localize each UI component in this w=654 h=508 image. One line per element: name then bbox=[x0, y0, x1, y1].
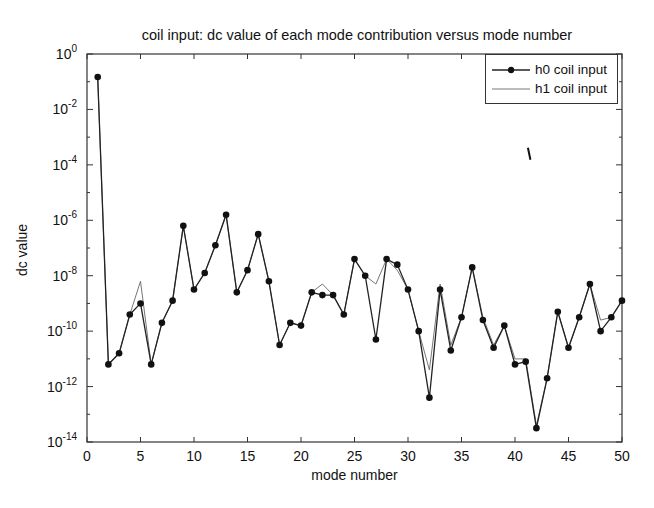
data-point-marker bbox=[394, 261, 401, 268]
data-point-marker bbox=[330, 292, 337, 299]
x-tick-label: 10 bbox=[186, 448, 202, 464]
y-tick-label: 10-2 bbox=[53, 98, 78, 117]
x-tick-label: 45 bbox=[561, 448, 577, 464]
data-point-marker bbox=[522, 358, 529, 365]
legend-label: h1 coil input bbox=[535, 81, 607, 96]
data-point-marker bbox=[619, 297, 626, 304]
y-tick-label: 100 bbox=[56, 43, 78, 62]
y-tick-label: 10-8 bbox=[53, 265, 78, 284]
data-point-marker bbox=[127, 311, 134, 318]
data-point-marker bbox=[533, 425, 540, 432]
data-point-marker bbox=[351, 256, 358, 263]
x-tick-label: 35 bbox=[454, 448, 470, 464]
data-point-marker bbox=[341, 311, 348, 318]
x-tick-label: 15 bbox=[240, 448, 256, 464]
legend-item-h0: h0 coil input bbox=[486, 60, 617, 80]
data-point-marker bbox=[169, 297, 176, 304]
y-axis-label: dc value bbox=[14, 224, 30, 276]
data-point-marker bbox=[223, 211, 230, 218]
data-point-marker bbox=[373, 336, 380, 343]
legend-item-h1: h1 coil input bbox=[486, 79, 617, 99]
data-point-marker bbox=[116, 350, 123, 357]
x-tick-label: 0 bbox=[83, 448, 91, 464]
thin-line-icon bbox=[490, 79, 535, 99]
data-point-marker bbox=[159, 320, 166, 327]
data-point-marker bbox=[298, 322, 305, 329]
data-point-marker bbox=[426, 394, 433, 401]
data-point-marker bbox=[255, 231, 262, 238]
data-point-marker bbox=[437, 286, 444, 293]
data-point-marker bbox=[308, 289, 315, 296]
x-tick-label: 30 bbox=[400, 448, 416, 464]
data-point-marker bbox=[448, 347, 455, 354]
data-point-marker bbox=[180, 223, 187, 230]
x-tick-label: 40 bbox=[507, 448, 523, 464]
data-point-marker bbox=[480, 317, 487, 324]
stray-mark bbox=[528, 148, 531, 160]
data-point-marker bbox=[383, 256, 390, 263]
data-point-marker bbox=[576, 314, 583, 321]
data-point-marker bbox=[148, 361, 155, 368]
data-point-marker bbox=[234, 289, 241, 296]
data-point-marker bbox=[555, 308, 562, 315]
data-point-marker bbox=[212, 242, 219, 249]
data-point-marker bbox=[458, 314, 465, 321]
y-tick-label: 10-14 bbox=[47, 431, 77, 450]
data-point-marker bbox=[94, 74, 101, 81]
data-point-marker bbox=[608, 314, 615, 321]
series-group bbox=[94, 74, 625, 432]
x-axis-label: mode number bbox=[87, 467, 622, 483]
data-point-marker bbox=[137, 300, 144, 307]
line-with-marker-icon bbox=[490, 60, 535, 80]
data-point-marker bbox=[105, 361, 112, 368]
y-tick-label: 10-6 bbox=[53, 209, 78, 228]
data-point-marker bbox=[201, 270, 208, 277]
data-point-marker bbox=[276, 342, 283, 349]
legend-label: h0 coil input bbox=[535, 62, 607, 77]
data-point-marker bbox=[544, 375, 551, 382]
data-point-marker bbox=[501, 322, 508, 329]
data-point-marker bbox=[587, 281, 594, 288]
x-tick-label: 50 bbox=[614, 448, 630, 464]
y-axis: 10010-210-410-610-810-1010-1210-14 bbox=[47, 43, 622, 450]
data-point-marker bbox=[565, 344, 572, 351]
legend: h0 coil input h1 coil input bbox=[485, 54, 618, 104]
data-point-marker bbox=[512, 361, 519, 368]
x-tick-label: 25 bbox=[347, 448, 363, 464]
data-point-marker bbox=[266, 278, 273, 285]
data-point-marker bbox=[287, 320, 294, 327]
data-point-marker bbox=[191, 286, 198, 293]
data-point-marker bbox=[362, 272, 369, 279]
data-point-marker bbox=[415, 328, 422, 335]
data-point-marker bbox=[490, 344, 497, 351]
data-point-marker bbox=[597, 328, 604, 335]
data-point-marker bbox=[469, 264, 476, 271]
x-tick-label: 5 bbox=[137, 448, 145, 464]
data-point-marker bbox=[319, 292, 326, 299]
data-point-marker bbox=[244, 267, 251, 274]
y-tick-label: 10-4 bbox=[53, 154, 78, 173]
data-point-marker bbox=[405, 286, 412, 293]
series-h0-line bbox=[98, 77, 622, 428]
series-h1-line bbox=[98, 77, 622, 425]
y-tick-label: 10-12 bbox=[47, 376, 77, 395]
axes-box bbox=[87, 54, 622, 442]
y-tick-label: 10-10 bbox=[47, 320, 77, 339]
x-tick-label: 20 bbox=[293, 448, 309, 464]
